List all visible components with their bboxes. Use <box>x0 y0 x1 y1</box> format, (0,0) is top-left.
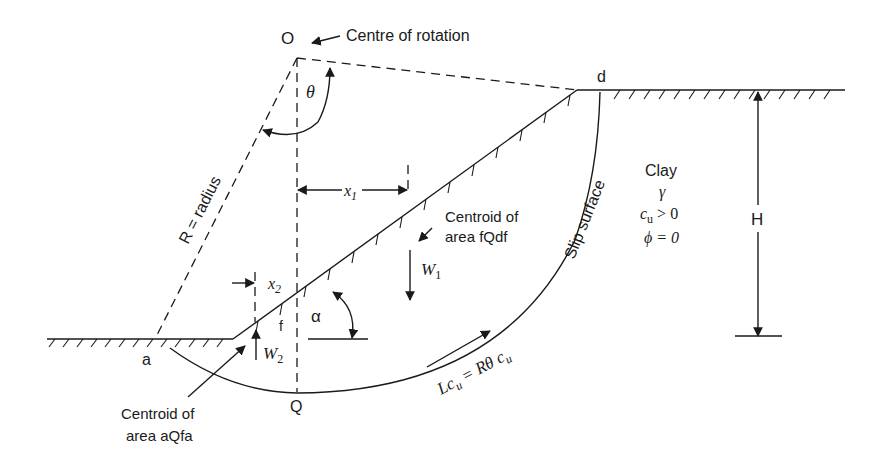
centre-arrow <box>312 36 340 43</box>
label-x1: x1 <box>343 182 357 203</box>
label-phi: ϕ = 0 <box>644 229 679 247</box>
label-R-radius: R = radius <box>176 173 224 246</box>
label-centroid-fqdf-line2: area fQdf <box>445 228 508 245</box>
label-centroid-aqfa-line2: area aQfa <box>126 427 193 444</box>
label-x2: x2 <box>267 275 281 296</box>
label-cu: cu > 0 <box>640 205 678 226</box>
label-alpha: α <box>311 307 321 326</box>
label-theta: θ <box>306 82 315 102</box>
slope-stability-diagram: O Centre of rotation θ d R = radius x1 x… <box>0 0 879 469</box>
line-O-to-d <box>297 58 577 90</box>
label-resisting-force: Lcu = Rθ cu <box>433 344 514 401</box>
slip-surface-arc <box>170 92 600 393</box>
label-W2: W2 <box>263 344 283 366</box>
label-clay: Clay <box>645 162 677 179</box>
label-gamma: γ <box>659 183 666 201</box>
label-H: H <box>751 210 763 229</box>
label-centre-of-rotation: Centre of rotation <box>346 27 470 44</box>
slope-face <box>233 90 577 339</box>
radius-line <box>155 58 297 339</box>
centroid-aqfa-pointer <box>188 346 245 397</box>
label-centroid-aqfa-line1: Centroid of <box>121 405 195 422</box>
alpha-arc <box>333 292 353 338</box>
centroid-fqdf-pointer <box>419 228 432 241</box>
label-O: O <box>281 29 294 48</box>
label-d: d <box>597 68 606 85</box>
label-slip-surface: Slip surface <box>561 177 608 261</box>
label-f: f <box>279 318 283 334</box>
label-a: a <box>142 351 151 368</box>
label-centroid-fqdf-line1: Centroid of <box>445 208 519 225</box>
ground-upper <box>577 90 845 99</box>
label-Q: Q <box>290 398 302 415</box>
label-W1: W1 <box>421 260 441 282</box>
ground-lower <box>47 339 233 347</box>
